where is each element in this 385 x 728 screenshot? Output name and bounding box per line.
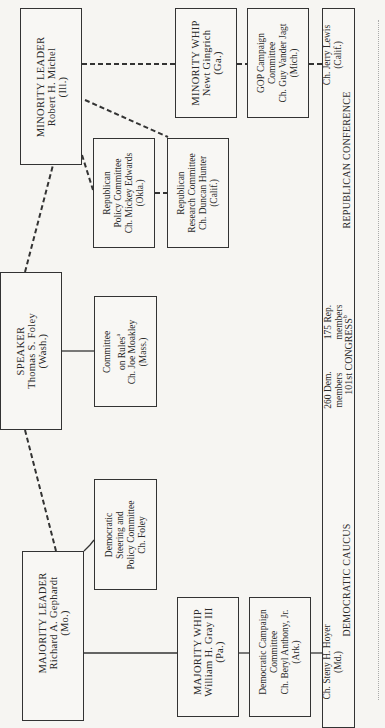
minority-leader-title: MINORITY LEADER <box>35 36 46 137</box>
speaker-box: SPEAKER Thomas S. Foley (Wash.) <box>0 272 62 430</box>
democratic-steering-policy-box: Democratic Steering and Policy Committee… <box>94 479 157 590</box>
minority-whip-state: (Ga.) <box>212 20 223 105</box>
dem-campaign-chair: Ch. Beryl Anthony, Jr. <box>280 609 291 695</box>
rules-line1: Committee <box>102 319 113 384</box>
minority-leader-state: (Ill.) <box>57 36 68 137</box>
rep-member-count: 175 Rep. <box>323 305 334 340</box>
gop-campaign-chair: Ch. Guy Vander Jagt <box>278 24 289 103</box>
gop-campaign-line1: GOP Campaign <box>256 24 267 103</box>
minority-leader-box: MINORITY LEADER Robert H. Michel (Ill.) <box>20 8 82 165</box>
gop-campaign-committee-box: GOP Campaign Committee Ch. Guy Vander Ja… <box>247 8 309 118</box>
rep-conference-chair: Ch. Jerry Lewis (Calif.) <box>322 25 344 85</box>
rules-line2: on Rules <box>116 336 126 370</box>
rep-research-line2: Research Committee <box>187 153 198 232</box>
rep-conference-chair-state: (Calif.) <box>333 25 344 85</box>
rep-conference-label: REPUBLICAN CONFERENCE <box>341 91 352 228</box>
dem-campaign-state: (Ark.) <box>291 609 302 695</box>
dem-caucus-chair-state: (Md.) <box>333 624 344 699</box>
republican-research-committee-box: Republican Research Committee Ch. Duncan… <box>167 138 229 248</box>
rep-conference-chair-name: Ch. Jerry Lewis <box>322 25 333 85</box>
gop-campaign-state: (Mich.) <box>289 24 300 103</box>
dem-member-count: 260 Dem. <box>323 371 334 408</box>
footnote-edge-marks <box>378 20 380 700</box>
speaker-name: Thomas S. Foley <box>26 313 37 389</box>
dem-steering-line2: Steering and <box>115 500 126 569</box>
gop-campaign-line2: Committee <box>267 24 278 103</box>
dem-caucus-label: DEMOCRATIC CAUCUS <box>341 523 352 636</box>
minority-whip-box: MINORITY WHIP Newt Gingrich (Ga.) <box>175 8 237 118</box>
majority-leader-name: Richard A. Gephardt <box>48 572 59 673</box>
dem-caucus-chair-name: Ch. Steny H. Hoyer <box>322 624 333 699</box>
rep-policy-chair: Ch. Mickey Edwards <box>124 153 135 233</box>
majority-whip-title: MAJORITY WHIP <box>192 608 203 697</box>
congress-footnote-marker: b <box>342 315 348 318</box>
rep-research-state: (Calif.) <box>209 153 220 232</box>
democratic-campaign-committee-box: Democratic Campaign Committee Ch. Beryl … <box>249 597 311 717</box>
majority-whip-state: (Pa.) <box>214 608 225 697</box>
congress-label: 101st CONGRESSb <box>340 315 353 394</box>
speaker-title: SPEAKER <box>15 313 26 389</box>
republican-policy-committee-box: Republican Policy Committee Ch. Mickey E… <box>93 138 155 248</box>
rep-policy-line1: Republican <box>102 153 113 233</box>
dem-campaign-line1: Democratic Campaign <box>258 609 269 695</box>
rules-footnote-marker: a <box>115 333 121 336</box>
minority-whip-name: Newt Gingrich <box>201 20 212 105</box>
rep-policy-state: (Okla.) <box>135 153 146 233</box>
minority-whip-title: MINORITY WHIP <box>190 20 201 105</box>
rules-committee-box: Committee on Rulesa Ch. Joe Moakley (Mas… <box>94 296 157 407</box>
majority-whip-name: William H. Gray III <box>203 608 214 697</box>
majority-whip-box: MAJORITY WHIP William H. Gray III (Pa.) <box>177 597 239 717</box>
majority-leader-state: (Mo.) <box>59 572 70 673</box>
dem-steering-line3: Policy Committee <box>126 500 137 569</box>
dem-steering-chair: Ch. Foley <box>137 500 148 569</box>
rules-state: (Mass.) <box>138 319 149 384</box>
congress-label-text: 101st CONGRESS <box>343 318 354 394</box>
rules-chair: Ch. Joe Moakley <box>127 319 138 384</box>
dem-steering-line1: Democratic <box>104 500 115 569</box>
dem-caucus-chair: Ch. Steny H. Hoyer (Md.) <box>322 624 344 699</box>
majority-leader-box: MAJORITY LEADER Richard A. Gephardt (Mo.… <box>22 551 84 721</box>
majority-leader-title: MAJORITY LEADER <box>37 572 48 673</box>
rep-research-chair: Ch. Duncan Hunter <box>198 153 209 232</box>
rep-research-line1: Republican <box>176 153 187 232</box>
dem-campaign-line2: Committee <box>269 609 280 695</box>
minority-leader-name: Robert H. Michel <box>46 36 57 137</box>
rep-policy-line2: Policy Committee <box>113 153 124 233</box>
speaker-state: (Wash.) <box>37 313 48 389</box>
